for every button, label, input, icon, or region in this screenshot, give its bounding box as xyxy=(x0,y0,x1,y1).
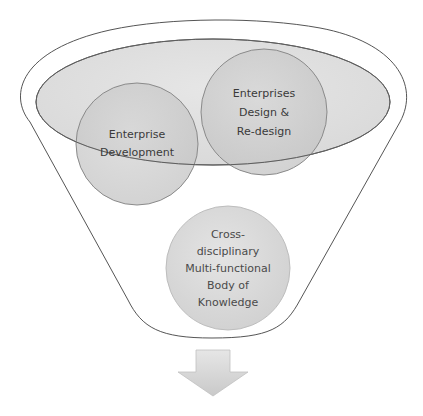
label-line: Knowledge xyxy=(185,294,271,311)
label-enterprises-design: Enterprises Design & Re-design xyxy=(233,84,295,141)
label-line: Multi-functional xyxy=(185,260,271,277)
label-line: disciplinary xyxy=(185,243,271,260)
down-arrow-icon xyxy=(178,350,248,396)
label-body-of-knowledge: Cross- disciplinary Multi-functional Bod… xyxy=(185,226,271,311)
label-line: Enterprise xyxy=(100,126,174,144)
label-line: Cross- xyxy=(185,226,271,243)
label-line: Body of xyxy=(185,277,271,294)
label-line: Re-design xyxy=(233,122,295,141)
label-enterprise-development: Enterprise Development xyxy=(100,126,174,162)
label-line: Development xyxy=(100,144,174,162)
funnel-diagram xyxy=(0,0,423,416)
label-line: Design & xyxy=(233,103,295,122)
label-line: Enterprises xyxy=(233,84,295,103)
